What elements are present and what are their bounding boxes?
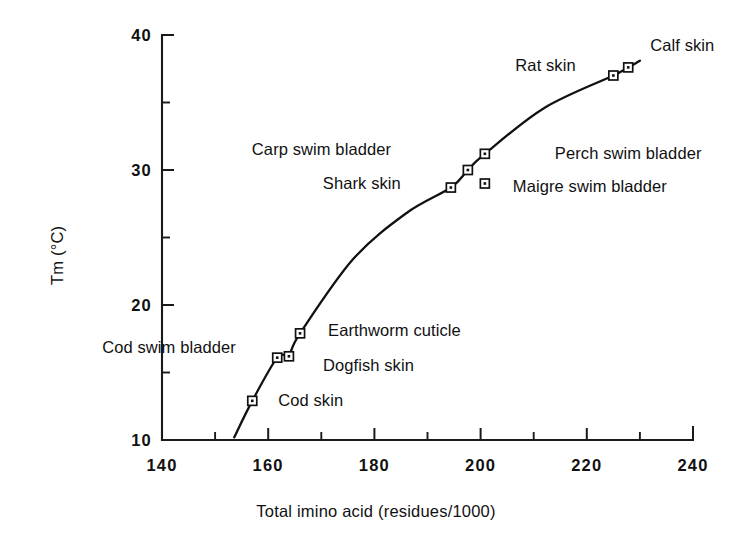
data-point-marker[interactable] xyxy=(480,149,489,158)
trend-curve-group xyxy=(234,61,640,438)
marker-center-dot xyxy=(484,153,487,156)
data-point-marker[interactable] xyxy=(446,183,455,192)
y-axis-tick-label: 20 xyxy=(116,296,152,315)
point-annotation-label: Rat skin xyxy=(515,56,575,75)
point-annotation-label: Shark skin xyxy=(323,174,401,193)
y-axis-tick-label: 30 xyxy=(116,161,152,180)
x-axis-tick-label: 140 xyxy=(146,456,177,475)
x-axis-tick-label: 180 xyxy=(359,456,390,475)
chart-figure: 140160180200220240 40302010 Cod skinCod … xyxy=(0,0,753,544)
data-point-marker[interactable] xyxy=(284,352,293,361)
point-annotation-label: Perch swim bladder xyxy=(555,144,702,163)
data-point-marker[interactable] xyxy=(609,71,618,80)
data-markers-group xyxy=(248,63,633,405)
marker-center-dot xyxy=(484,182,487,185)
marker-center-dot xyxy=(288,355,291,358)
point-annotation-label: Carp swim bladder xyxy=(252,140,391,159)
y-axis-tick-label: 40 xyxy=(116,26,152,45)
marker-center-dot xyxy=(276,356,279,359)
point-annotation-label: Cod skin xyxy=(278,391,343,410)
data-point-marker[interactable] xyxy=(273,353,282,362)
data-point-marker[interactable] xyxy=(296,329,305,338)
point-annotation-label: Calf skin xyxy=(650,36,714,55)
point-annotation-label: Earthworm cuticle xyxy=(328,321,461,340)
axes-group xyxy=(162,35,693,440)
data-point-marker[interactable] xyxy=(480,179,489,188)
data-point-marker[interactable] xyxy=(248,396,257,405)
point-annotation-label: Dogfish skin xyxy=(323,356,414,375)
marker-center-dot xyxy=(612,74,615,77)
marker-center-dot xyxy=(627,66,630,69)
x-axis-tick-label: 200 xyxy=(465,456,496,475)
trend-curve xyxy=(234,61,640,438)
data-point-marker[interactable] xyxy=(463,166,472,175)
x-axis-tick-label: 240 xyxy=(677,456,708,475)
y-axis-tick-label: 10 xyxy=(116,431,152,450)
marker-center-dot xyxy=(299,332,302,335)
x-axis-tick-label: 220 xyxy=(571,456,602,475)
point-annotation-label: Cod swim bladder xyxy=(102,338,236,357)
point-annotation-label: Maigre swim bladder xyxy=(513,177,667,196)
x-axis-title: Total imino acid (residues/1000) xyxy=(256,502,495,521)
marker-center-dot xyxy=(467,169,470,172)
x-axis-tick-label: 160 xyxy=(253,456,284,475)
marker-center-dot xyxy=(251,400,254,403)
data-point-marker[interactable] xyxy=(624,63,633,72)
y-axis-title: Tm (°C) xyxy=(48,226,67,285)
marker-center-dot xyxy=(450,186,453,189)
